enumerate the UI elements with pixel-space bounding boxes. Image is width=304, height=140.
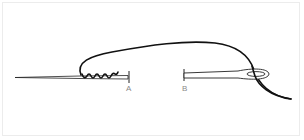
label-a: A (126, 85, 131, 93)
label-b: B (182, 85, 187, 93)
needle-thread-diagram (0, 0, 304, 140)
left-needle (15, 71, 129, 83)
needle-eye (247, 72, 265, 77)
